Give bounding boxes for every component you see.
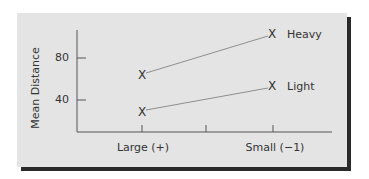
y-tick-label-40: 40 [55,93,69,106]
series-line-heavy [146,36,268,73]
marker-light-small: X [268,80,276,92]
x-tick-label-large: Large (+) [117,141,169,154]
marker-heavy-small: X [268,28,276,40]
series-line-light [146,88,268,110]
series-label-heavy: Heavy [287,28,322,41]
marker-light-large: X [138,106,146,118]
x-tick-label-small: Small (−1) [246,141,305,154]
y-tick-label-80: 80 [55,51,69,64]
y-axis-label: Mean Distance [29,47,42,129]
marker-heavy-large: X [138,69,146,81]
series-label-light: Light [287,80,314,93]
